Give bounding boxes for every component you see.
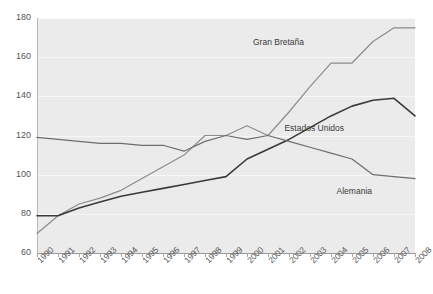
y-tick-label: 180 — [16, 12, 31, 22]
y-tick-label: 100 — [16, 169, 31, 179]
x-tick-label: 2008 — [413, 245, 433, 265]
gridline — [37, 136, 415, 137]
gridline — [37, 96, 415, 97]
y-tick-label: 80 — [21, 208, 31, 218]
y-axis-line — [37, 18, 38, 253]
y-tick-label: 60 — [21, 247, 31, 257]
series-label-gran-bretana: Gran Bretaña — [253, 37, 304, 47]
plot-area — [37, 18, 415, 253]
gridline — [37, 18, 415, 19]
series-label-alemania: Alemania — [337, 186, 372, 196]
gridline — [37, 214, 415, 215]
y-tick-label: 140 — [16, 90, 31, 100]
gridline — [37, 175, 415, 176]
y-axis-labels: 6080100120140160180 — [0, 0, 33, 294]
gridline — [37, 57, 415, 58]
y-tick-label: 160 — [16, 51, 31, 61]
series-label-estados-unidos: Estados Unidos — [284, 123, 344, 133]
y-tick-label: 120 — [16, 130, 31, 140]
